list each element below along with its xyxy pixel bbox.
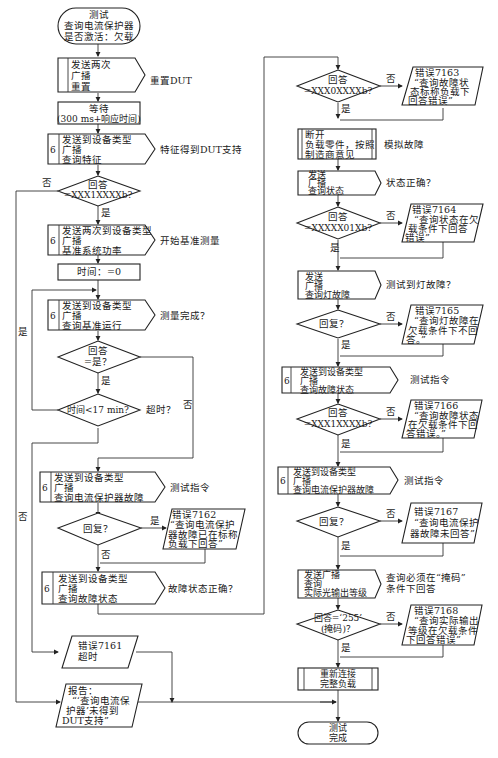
query-reference-block: 6 发送到设备类型 广播 查询基准运行 测量完成？ 是 [18, 300, 210, 337]
node-text-line: (300 ms+响应时间) [57, 113, 141, 124]
node-text-line: 6 [50, 145, 56, 155]
label-no: 否 [18, 511, 28, 522]
query-status-block: 发送 广播 查询状态 状态正确？ [298, 169, 436, 196]
label-yes: 是 [330, 242, 340, 253]
error-7162: 错误7162 “查询电流保护 器故障已在标称 负载下回答” [163, 509, 245, 549]
label-no: 否 [386, 73, 396, 84]
label-yes: 是 [341, 339, 351, 350]
node-text-line: 基准系统功率 [62, 245, 122, 256]
node-text-line: 6 [280, 476, 286, 486]
node-text-line: 6 [42, 483, 48, 493]
decision-xxx0: 回答 =XXX0XXXXb? 否 是 [297, 70, 396, 114]
label-no: 否 [386, 406, 396, 417]
node-text-line: 实际光输出等级 [304, 587, 367, 598]
query-cp-failure-block: 6 发送到设备类型 广播 查询电流保护器故障 测试指令 [40, 472, 210, 503]
disconnect-note: 模拟故障 [384, 139, 424, 150]
node-text-line: 广播 [71, 70, 91, 81]
node-text-line: 测试 [329, 722, 347, 733]
query-cp-failure-2-block: 6 发送到设备类型 广播 查询电流保护器故障 测试指令 [278, 466, 444, 495]
label-yes: 是 [341, 438, 351, 449]
node-text-line: 6 [50, 311, 56, 321]
node-text-line: 回复？ [319, 318, 349, 329]
reset-note: 重置DUT [150, 75, 193, 86]
query-status-note: 状态正确？ [386, 177, 436, 188]
label-no: 否 [386, 311, 396, 322]
decision-255-mask: 回答=‘255’ (掩码)？ 否 是 [297, 610, 396, 653]
query-feature-block: 6 发送到设备类型 广播 查询特征 特征得到DUT支持 [48, 134, 242, 165]
label-yes: 是 [150, 515, 160, 526]
node-text-line: 回答 [88, 345, 108, 356]
end-terminal: 测试 完成 [298, 722, 378, 744]
error-7166: 错误7166 “查询故障状态 在欠载条件下回 答错误。” [402, 400, 482, 439]
query-lamp-note: 测试到灯故障？ [386, 279, 456, 290]
decision-answer-yes: 回答 =是？ 是 [58, 341, 140, 386]
node-text-line: 查询电流保护器故障 [54, 492, 144, 503]
query-fault-state-block: 6 发送到设备类型 广播 查询故障状态 故障状态正确？ [42, 572, 238, 604]
node-text-line: 回答=‘255’ [314, 612, 363, 623]
query-lamp-failure-block: 发送 广播 查询灯故障 测试到灯故障？ [298, 271, 456, 300]
query-fault-state-2-block: 6 发送到设备类型 广播 查询故障状态 测试指令 [282, 366, 450, 395]
node-text-line: 查询灯故障 [305, 289, 350, 300]
node-text-line: 时间<17 min? [67, 404, 129, 415]
node-text-line: 下回答错误” [406, 634, 461, 645]
query-cp-failure-2-note: 测试指令 [404, 475, 444, 486]
node-text-line: 回答 [328, 407, 348, 418]
reconnect-load-block: 重新连接 完整负载 [298, 668, 378, 690]
error-7163: 错误7163 “查询故障状 态标称负载下 回答错误” [402, 67, 483, 106]
node-text-line: 完成 [329, 732, 347, 743]
node-text-line: 回答 [88, 179, 108, 190]
node-text-line: 答。” [406, 334, 426, 345]
disconnect-load-block: 断开 负载零件，按照 制造商意见 模拟故障 [298, 129, 424, 160]
node-text-line: 负载下回答” [168, 538, 223, 549]
node-text-line: 测试 [89, 9, 109, 20]
node-text-line: =XXX1XXXXb? [64, 190, 133, 200]
label-yes: 是 [101, 207, 111, 218]
node-text-line: 重置 [71, 81, 91, 92]
node-text-line: 时间：=0 [77, 266, 121, 277]
query-reference-note: 测量完成？ [160, 310, 210, 321]
reference-power-block: 6 发送两次到设备类型 广播 基准系统功率 开始基准测量 [48, 225, 220, 256]
node-text-line: 错误” [405, 232, 430, 243]
query-light-note-2: 条件下回答 [386, 583, 436, 594]
loop-label-yes: 是 [18, 326, 28, 337]
query-fault-state-note: 故障状态正确？ [168, 583, 238, 594]
decision-reply-3: 回复？ 否 是 [297, 507, 396, 551]
error-7168: 错误7168 “查询实际输出 等级在欠载条件 下回答错误” [402, 605, 482, 645]
node-text-line: 回答错误” [408, 95, 453, 106]
query-light-output-block: 发送广播 查询 实际光输出等级 查询必须在“掩码” 条件下回答 [298, 569, 466, 598]
node-text-line: 查询状态 [308, 185, 344, 196]
query-fault-state-2-note: 测试指令 [410, 374, 450, 385]
node-text-line: DUT支持” [62, 715, 109, 726]
node-text-line: =XXX1XXXXb? [304, 419, 373, 429]
node-text-line: 回复？ [83, 523, 113, 534]
decision-status: 回答 =XXXXX01Xb? 否 是 [297, 207, 396, 253]
node-text-line: 回答 [328, 74, 348, 85]
label-yes: 是 [101, 375, 111, 386]
node-text-line: =XXX0XXXXb? [304, 86, 373, 96]
reset-send-block: 发送两次 广播 重置 重置DUT [58, 58, 193, 92]
label-no: 否 [183, 399, 193, 410]
node-text-line: =是？ [84, 356, 112, 367]
query-light-note-1: 查询必须在“掩码” [386, 572, 466, 583]
node-text-line: (掩码)？ [321, 623, 355, 634]
start-terminal: 测试 查询电流保护器 是否激活：欠载 [58, 8, 140, 44]
node-text-line: 回答 [328, 211, 348, 222]
node-text-line: 等待 [89, 103, 109, 114]
query-cp-failure-note: 测试指令 [170, 482, 210, 493]
label-yes: 是 [341, 103, 351, 114]
decision-reply-1: 回复？ 是 否 [58, 513, 160, 560]
node-text-line: 器故障未回答” [410, 528, 475, 539]
label-no: 否 [386, 611, 396, 622]
report-unsupported: 报告： “‘查询电流保 护器’未得到 DUT支持” [56, 684, 142, 727]
node-text-line: 6 [50, 236, 56, 246]
node-text-line: 重新连接 [320, 668, 356, 679]
label-yes: 是 [341, 540, 351, 551]
node-text-line: 查询基准运行 [62, 320, 122, 331]
error-7165: 错误7165 “查询灯故障在 欠载条件下不回 答。” [402, 305, 483, 345]
node-text-line: 完整负载 [320, 678, 356, 689]
time-reset-block: 时间：=0 [58, 264, 140, 280]
node-text-line: 查询电流保护器故障 [293, 484, 374, 495]
decision-xxx1: 回答 =XXX1XXXXb? 否 是 [297, 404, 396, 449]
node-text-line: 查询故障状态 [58, 593, 118, 604]
decision-reply-2: 回复？ 否 是 [297, 310, 396, 350]
